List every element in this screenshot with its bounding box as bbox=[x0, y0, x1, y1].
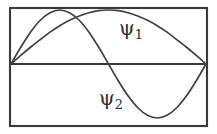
psi2-subscript: 2 bbox=[115, 97, 123, 112]
psi1-symbol: ψ bbox=[119, 16, 135, 40]
wavefunction-figure: ψ1 ψ2 bbox=[0, 0, 217, 134]
psi2-label: ψ2 bbox=[99, 88, 123, 108]
psi1-subscript: 1 bbox=[135, 27, 143, 42]
psi1-label: ψ1 bbox=[119, 18, 143, 38]
wavefunction-plot-svg bbox=[0, 0, 217, 134]
psi2-symbol: ψ bbox=[99, 86, 115, 110]
